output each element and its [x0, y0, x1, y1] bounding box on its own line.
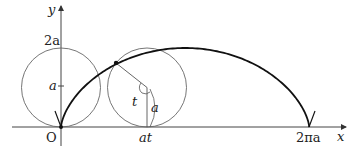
origin-label: O [46, 131, 57, 144]
radius-to-point [116, 63, 147, 88]
diagram-canvas [0, 0, 358, 150]
cycloid-diagram: y x O 2a a at 2πa t a [0, 0, 358, 150]
y-tick-label-2a: 2a [44, 34, 60, 47]
cusp-left [55, 111, 61, 127]
origin-point [59, 125, 63, 129]
cycloid-curve [61, 48, 309, 127]
y-axis-label: y [48, 3, 55, 16]
radius-label-a: a [151, 101, 159, 114]
x-axis-label: x [337, 130, 344, 143]
y-tick-label-a: a [49, 79, 57, 92]
x-tick-label-2pia: 2πa [296, 131, 321, 144]
cusp-right [309, 111, 315, 127]
x-tick-label-at: at [139, 131, 152, 144]
curve-point [114, 61, 118, 65]
angle-arc [139, 83, 150, 94]
angle-label-t: t [132, 95, 137, 108]
